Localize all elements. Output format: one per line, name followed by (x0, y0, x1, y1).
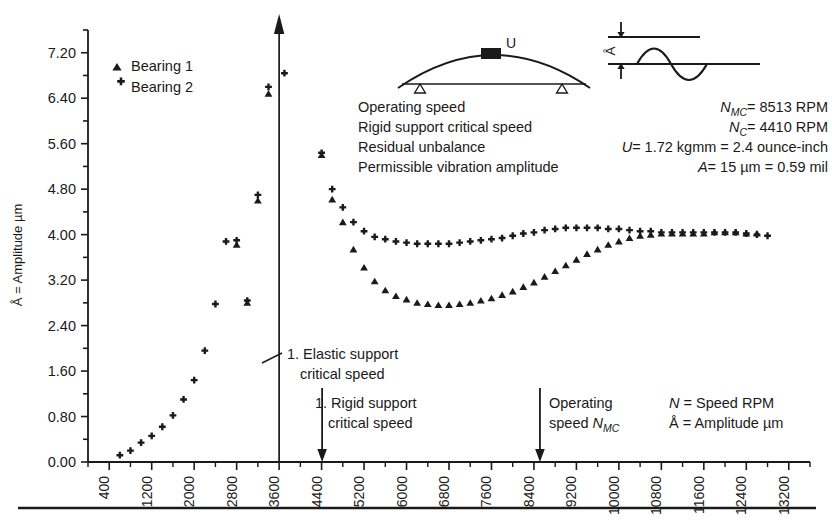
plus-marker (509, 232, 516, 239)
x-axis-tick-label: 5200 (351, 476, 367, 507)
annotation-operating-speed: Operating speed NMC (535, 388, 620, 462)
key-speed-line: N = Speed RPM (669, 395, 774, 411)
wave-amplitude-label: Å (603, 46, 618, 55)
plus-marker (414, 240, 421, 247)
key-a-symbol: Å (669, 415, 679, 431)
amplitude-wave-diagram: Å (603, 22, 760, 80)
y-axis-tick-label: 3.20 (48, 272, 76, 288)
x-axis-tick-label: 6000 (394, 476, 410, 507)
triangle-marker (360, 264, 368, 271)
plus-marker-icon (117, 78, 125, 86)
plus-marker (191, 377, 198, 384)
plus-marker (626, 227, 633, 234)
plus-marker (488, 236, 495, 243)
rotor-support-right-icon (557, 84, 568, 93)
nmc-value: = 8513 RPM (747, 99, 828, 115)
y-axis-tick-label: 0.00 (48, 454, 76, 470)
x-axis-tick-label: 3600 (266, 476, 282, 507)
triangle-marker (488, 295, 496, 302)
plus-marker (754, 231, 761, 238)
operating-n-symbol: N (593, 415, 604, 431)
plus-marker (477, 237, 484, 244)
plus-marker (403, 239, 410, 246)
plus-marker (424, 240, 431, 247)
y-axis: 0.000.801.602.403.204.004.805.606.407.20 (48, 30, 88, 470)
plus-marker (201, 347, 208, 354)
unbalance-label: U (506, 35, 516, 51)
parameter-value-nc: NC= 4410 RPM (729, 119, 828, 138)
plus-marker (318, 149, 325, 156)
operating-speed-arrow-head-icon (535, 449, 545, 462)
elastic-annotation-line-1: 1. Elastic support (287, 346, 398, 362)
nc-value: = 4410 RPM (747, 119, 828, 135)
triangle-marker (381, 287, 389, 294)
triangle-marker (509, 288, 517, 295)
chart-legend: Bearing 1 Bearing 2 (112, 58, 193, 95)
plus-marker (265, 83, 272, 90)
triangle-marker (594, 246, 602, 253)
x-axis-tick-label: 7600 (478, 476, 494, 507)
annotation-elastic-critical-speed: 1. Elastic support critical speed (262, 346, 398, 382)
triangle-marker (328, 196, 336, 203)
chart-figure: Å = Amplitude µm 0.000.801.602.403.204.0… (0, 0, 832, 520)
plus-marker (594, 224, 601, 231)
plus-marker (212, 301, 219, 308)
plus-marker (350, 219, 357, 226)
triangle-marker (530, 279, 538, 286)
parameter-line-permissible-amplitude: Permissible vibration amplitude (358, 159, 559, 175)
triangle-marker (371, 278, 379, 285)
triangle-marker (466, 299, 474, 306)
plus-marker (382, 236, 389, 243)
parameter-value-nmc: NMC= 8513 RPM (720, 99, 828, 118)
y-axis-tick-label: 6.40 (48, 90, 76, 106)
triangle-marker (265, 90, 273, 97)
rigid-annotation-line-1: 1. Rigid support (315, 395, 417, 411)
nmc-symbol: N (720, 99, 731, 115)
x-axis-tick-label: 6800 (436, 476, 452, 507)
plus-marker (647, 228, 654, 235)
key-n-desc: = Speed RPM (679, 395, 774, 411)
triangle-marker (350, 246, 358, 253)
triangle-marker (424, 300, 432, 307)
x-axis-tick-label: 4400 (309, 476, 325, 507)
triangle-marker (551, 267, 559, 274)
key-n-symbol: N (669, 395, 680, 411)
triangle-marker (413, 299, 421, 306)
plus-marker (499, 235, 506, 242)
triangle-marker (541, 273, 549, 280)
u-value: = 1.72 kgmm = 2.4 ounce-inch (632, 139, 828, 155)
x-axis-tick-label: 9200 (563, 476, 579, 507)
plus-marker (127, 447, 134, 454)
plus-marker (159, 423, 166, 430)
vibration-amplitude-scatter-chart: Å = Amplitude µm 0.000.801.602.403.204.0… (0, 0, 832, 520)
key-a-desc: = Amplitude µm (679, 415, 784, 431)
plus-marker (339, 204, 346, 211)
y-axis-tick-label: 4.80 (48, 181, 76, 197)
triangle-marker (498, 291, 506, 298)
triangle-marker (626, 234, 634, 241)
triangle-marker (434, 302, 442, 309)
plus-marker (393, 238, 400, 245)
y-axis-tick-label: 7.20 (48, 45, 76, 61)
plus-marker (116, 452, 123, 459)
plus-marker (541, 227, 548, 234)
x-axis-tick-label: 2000 (181, 476, 197, 507)
key-amplitude-line: Å = Amplitude µm (669, 415, 783, 431)
plus-marker (531, 229, 538, 236)
triangle-marker (445, 302, 453, 309)
plus-marker (764, 232, 771, 239)
x-axis-tick-label: 1200 (139, 476, 155, 507)
y-axis-tick-label: 5.60 (48, 136, 76, 152)
plus-marker (467, 238, 474, 245)
plus-marker (170, 412, 177, 419)
rigid-annotation-line-2: critical speed (328, 415, 413, 431)
unbalance-mass-block (481, 48, 501, 59)
parameter-value-a: A= 15 µm = 0.59 mil (697, 159, 828, 175)
u-symbol: U (622, 139, 633, 155)
plus-marker (371, 234, 378, 241)
annotation-rigid-critical-speed: 1. Rigid support critical speed (315, 388, 417, 462)
plus-marker (281, 70, 288, 77)
plus-marker (573, 224, 580, 231)
triangle-marker (562, 262, 570, 269)
plus-marker (456, 239, 463, 246)
